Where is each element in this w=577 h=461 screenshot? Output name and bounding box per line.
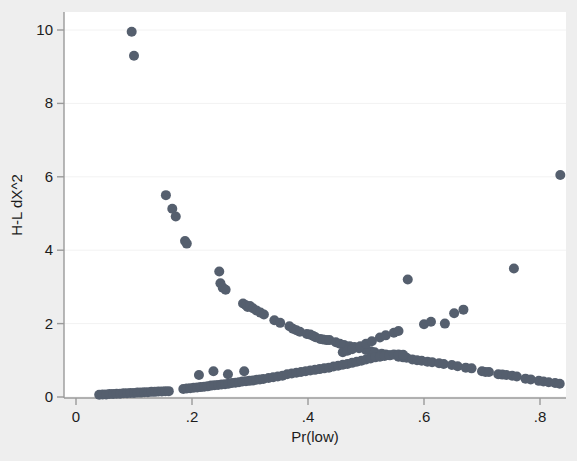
data-point [127,27,137,37]
data-point [259,309,269,319]
data-point [194,370,204,380]
data-point [129,51,139,61]
data-point [509,264,519,274]
data-point [171,211,181,221]
chart-figure: 02468100.2.4.6.8 Pr(low) H-L dX^2 [0,0,577,461]
x-axis-title: Pr(low) [291,428,339,445]
data-point [393,326,403,336]
data-point [458,305,468,315]
data-point [467,363,477,373]
data-point [221,285,231,295]
data-point [214,266,224,276]
data-point [398,350,408,360]
y-tick-label: 6 [45,168,53,185]
data-point [182,239,192,249]
data-point [403,275,413,285]
data-point [208,366,218,376]
data-point [275,318,285,328]
data-point [555,379,565,389]
y-tick-label: 0 [45,388,53,405]
data-point [239,366,249,376]
y-axis-title: H-L dX^2 [8,174,25,236]
y-tick-label: 2 [45,315,53,332]
data-point [449,308,459,318]
data-point [164,386,174,396]
x-tick-label: .8 [534,408,547,425]
data-point [223,369,233,379]
data-point [161,190,171,200]
scatter-plot: 02468100.2.4.6.8 Pr(low) H-L dX^2 [0,0,577,461]
y-tick-label: 8 [45,94,53,111]
x-tick-label: .6 [418,408,431,425]
data-point [512,371,522,381]
data-point [440,319,450,329]
data-point [426,317,436,327]
data-point [484,367,494,377]
x-tick-label: .2 [186,408,199,425]
data-point [555,170,565,180]
y-tick-label: 4 [45,241,53,258]
x-tick-label: 0 [72,408,80,425]
x-tick-label: .4 [302,408,315,425]
y-tick-label: 10 [36,21,53,38]
